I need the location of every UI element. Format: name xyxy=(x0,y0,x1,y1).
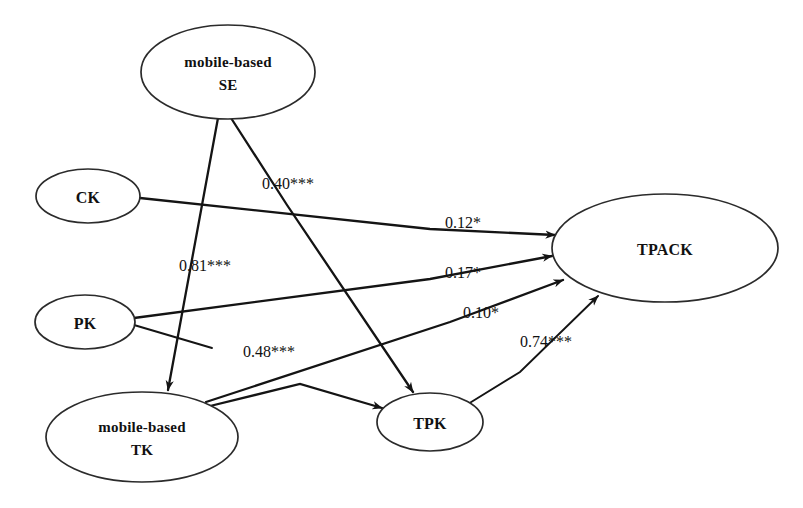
node-tpack[interactable]: TPACK xyxy=(552,194,778,302)
path-diagram-figure: mobile-based SE CK PK mobile-based TK TP… xyxy=(0,0,803,508)
node-label-tpk: TPK xyxy=(413,415,447,432)
edge-label-tpk-to-tpack: 0.74*** xyxy=(520,333,572,350)
node-tpk[interactable]: TPK xyxy=(377,393,483,451)
node-shape-mobile-based-tk xyxy=(46,392,238,482)
edge-label-mobile-tk-to-tpk: 0.48*** xyxy=(243,343,295,360)
edge-line-se-to-mobile-tk xyxy=(168,118,218,390)
node-label-ck: CK xyxy=(76,189,101,206)
node-pk[interactable]: PK xyxy=(35,295,135,349)
node-shape-mobile-based-se xyxy=(141,25,315,119)
node-mobile-based-se[interactable]: mobile-based SE xyxy=(141,25,315,119)
edge-line-pk-to-mobile-tk xyxy=(134,325,212,348)
node-mobile-based-tk[interactable]: mobile-based TK xyxy=(46,392,238,482)
edge-line-mobile-tk-to-tpk xyxy=(206,384,382,408)
node-ck[interactable]: CK xyxy=(36,169,140,223)
node-layer: mobile-based SE CK PK mobile-based TK TP… xyxy=(35,25,778,482)
node-label-mobile-based-se-line2: SE xyxy=(219,77,238,93)
edge-line-ck-to-tpack xyxy=(140,198,555,235)
edge-line-mobile-tk-to-tpack xyxy=(206,280,563,402)
edge-label-ck-to-tpack: 0.12* xyxy=(445,214,481,231)
edge-label-pk-to-tpack: 0.17* xyxy=(445,264,481,281)
node-label-mobile-based-tk-line1: mobile-based xyxy=(98,419,186,435)
edge-label-layer: 0.81*** 0.40*** 0.12* 0.17* 0.10* 0.48**… xyxy=(179,175,572,360)
edge-label-mobile-tk-to-tpack: 0.10* xyxy=(463,304,499,321)
edge-label-se-to-tpk: 0.40*** xyxy=(262,175,314,192)
edge-label-se-to-mobile-tk: 0.81*** xyxy=(179,257,231,274)
node-label-mobile-based-tk-line2: TK xyxy=(131,442,153,458)
node-label-tpack: TPACK xyxy=(637,241,693,258)
node-label-pk: PK xyxy=(74,315,97,332)
path-diagram-canvas: mobile-based SE CK PK mobile-based TK TP… xyxy=(0,0,803,508)
node-label-mobile-based-se-line1: mobile-based xyxy=(184,54,272,70)
